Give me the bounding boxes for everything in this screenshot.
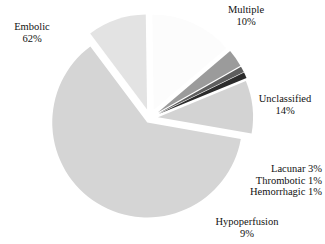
slice-label-multiple-value: 10% [208,16,284,28]
slice-label-lacunar: Lacunar 3% [232,163,322,175]
slice-label-embolic: Embolic 62% [4,21,60,44]
slice-label-unclassified-name: Unclassified [248,93,322,105]
slice-label-multiple: Multiple 10% [208,4,284,27]
slice-label-hemorrhagic-name: Hemorrhagic 1% [216,186,322,198]
slice-label-thrombotic-name: Thrombotic 1% [222,175,322,187]
slice-label-hypoperfusion: Hypoperfusion 9% [204,216,290,239]
slice-label-hypoperfusion-name: Hypoperfusion [204,216,290,228]
pie-chart-figure: Embolic 62% Multiple 10% Unclassified 14… [0,0,325,244]
slice-label-hypoperfusion-value: 9% [204,228,290,240]
slice-label-thrombotic: Thrombotic 1% [222,175,322,187]
slice-label-embolic-name: Embolic [4,21,60,33]
slice-label-lacunar-name: Lacunar 3% [232,163,322,175]
slice-label-unclassified-value: 14% [248,105,322,117]
slice-label-embolic-value: 62% [4,33,60,45]
slice-label-unclassified: Unclassified 14% [248,93,322,116]
slice-label-multiple-name: Multiple [208,4,284,16]
slice-label-hemorrhagic: Hemorrhagic 1% [216,186,322,198]
